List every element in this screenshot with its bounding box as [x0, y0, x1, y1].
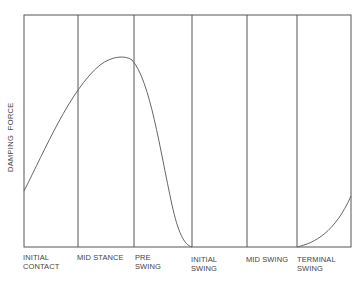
phase-label-mid-swing: MID SWING — [246, 255, 288, 264]
diagram-frame — [24, 15, 351, 247]
phase-label-initial-contact: INITIALCONTACT — [23, 253, 59, 271]
phase-label-mid-stance: MID STANCE — [77, 253, 124, 262]
gait-damping-diagram — [0, 0, 361, 284]
phase-label-terminal-swing: TERMINALSWING — [297, 255, 336, 273]
damping-curve-terminal-swing — [297, 196, 351, 247]
phase-label-pre-swing: PRESWING — [135, 253, 161, 271]
phase-label-initial-swing: INITIALSWING — [191, 255, 217, 273]
y-axis-label: DAMPING FORCE — [6, 102, 15, 172]
damping-curve-stance — [24, 57, 192, 247]
